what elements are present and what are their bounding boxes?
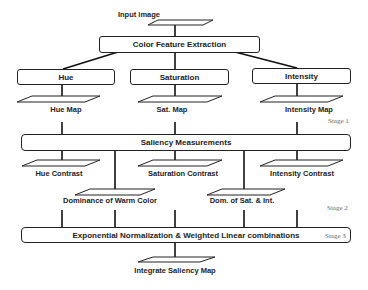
saliency-measurements-box: Saliency Measurements — [21, 134, 351, 151]
hue-map-shape — [17, 96, 100, 102]
input-image-shape — [148, 20, 213, 25]
dominance-sat-int-label: Dom. of Sat. & Int. — [210, 196, 275, 205]
hue-map-label: Hue Map — [50, 105, 81, 114]
intensity-contrast-label: Intensity Contrast — [270, 169, 334, 178]
integrate-map-shape — [138, 257, 215, 262]
hue-contrast-shape — [22, 160, 100, 166]
stage-2-label: Stage 2 — [327, 204, 348, 212]
sat-int-shape — [207, 189, 285, 195]
sat-map-label: Sat. Map — [157, 105, 188, 114]
stage-1-label: Stage 1 — [328, 117, 349, 125]
integrate-saliency-map-label: Integrate Saliency Map — [134, 266, 215, 275]
dominance-warm-color-label: Dominance of Warm Color — [63, 196, 157, 205]
hue-box: Hue — [17, 69, 115, 85]
color-feature-extraction-box: Color Feature Extraction — [99, 36, 260, 53]
saturation-contrast-shape — [138, 160, 222, 166]
sat-map-shape — [138, 96, 222, 102]
intensity-box: Intensity — [252, 68, 351, 84]
saturation-box: Saturation — [130, 69, 229, 85]
stage-3-label: Stage 3 — [325, 232, 346, 240]
warm-color-shape — [75, 189, 155, 195]
intensity-contrast-shape — [260, 160, 343, 166]
saturation-contrast-label: Saturation Contrast — [148, 169, 218, 178]
exponential-normalization-box: Exponential Normalization & Weighted Lin… — [21, 227, 351, 243]
input-image-label: Input image — [118, 10, 160, 19]
intensity-map-label: Intensity Map — [285, 105, 333, 114]
hue-contrast-label: Hue Contrast — [35, 169, 82, 178]
intensity-map-shape — [260, 96, 343, 102]
